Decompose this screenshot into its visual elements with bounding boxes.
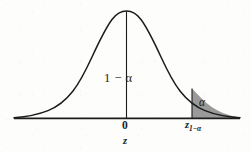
normal-distribution-figure: 1 − α α 0 z z1−α [0, 0, 251, 152]
axis-variable-label: z [123, 136, 127, 147]
critical-value-label: z1−α [185, 120, 201, 133]
tail-area-label: α [199, 97, 205, 109]
critical-value-subscript: 1−α [189, 124, 201, 133]
origin-tick-label: 0 [122, 120, 128, 132]
confidence-area-label: 1 − α [104, 72, 133, 85]
